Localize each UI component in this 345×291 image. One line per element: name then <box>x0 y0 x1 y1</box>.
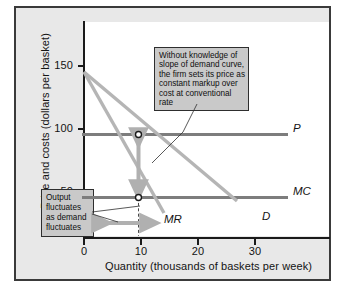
output-callout-leader-1 <box>92 214 118 222</box>
chart-curves-overlay <box>0 0 345 291</box>
price-point-marker <box>136 132 142 138</box>
cost-point-marker <box>136 195 142 201</box>
demand-curve <box>84 72 237 201</box>
economics-chart-figure: 150 100 50 0 10 20 30 Price and costs (d… <box>0 0 345 291</box>
output-callout-leader-2 <box>92 206 140 212</box>
marginal-revenue-curve <box>84 72 164 213</box>
